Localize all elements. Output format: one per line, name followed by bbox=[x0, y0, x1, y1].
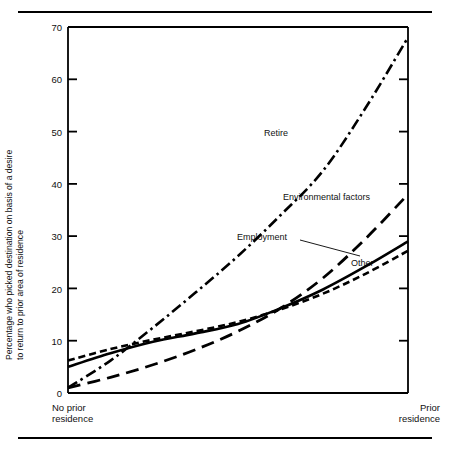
y-axis-ticks-right bbox=[399, 79, 408, 340]
series-line-other bbox=[68, 251, 408, 361]
chart-plot bbox=[0, 0, 450, 449]
series-line-employment bbox=[68, 241, 408, 366]
series-line-environmental-factors bbox=[68, 194, 408, 387]
employment-leader-line bbox=[300, 240, 360, 256]
y-axis-ticks bbox=[68, 79, 77, 340]
series-line-retire bbox=[68, 37, 408, 387]
plot-axes bbox=[68, 27, 408, 393]
series-paths bbox=[68, 37, 408, 387]
figure-container: Percentage who picked destination on bas… bbox=[0, 0, 450, 449]
